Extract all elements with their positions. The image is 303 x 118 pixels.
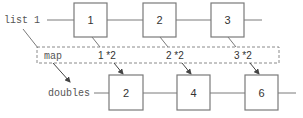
map-to-doubles-arrow-icon — [53, 63, 70, 82]
source-label-leader — [23, 29, 38, 48]
source-item: 2 — [143, 3, 176, 37]
source-list-label: list 1 — [4, 15, 40, 26]
map-diagram: list 1 1 2 3 map 1 *2 2 *2 3 *2 — [0, 0, 303, 118]
svg-text:4: 4 — [190, 87, 196, 99]
source-item: 1 — [74, 3, 107, 37]
svg-text:1: 1 — [87, 14, 93, 26]
map-expression: 2 *2 — [166, 50, 184, 61]
map-operation: map 1 *2 2 *2 3 *2 — [37, 47, 279, 63]
map-to-result-arrow-icon — [182, 63, 191, 74]
source-item: 3 — [211, 3, 244, 37]
map-label: map — [44, 51, 62, 62]
result-item: 2 — [109, 75, 143, 110]
svg-text:2: 2 — [123, 87, 129, 99]
map-expression: 3 *2 — [234, 50, 252, 61]
svg-text:3: 3 — [224, 14, 230, 26]
result-list-label: doubles — [48, 88, 90, 99]
map-to-result-arrow-icon — [114, 63, 123, 74]
map-to-result-arrow-icon — [250, 63, 259, 74]
source-to-map-line — [160, 37, 168, 47]
svg-text:6: 6 — [258, 87, 264, 99]
svg-text:2: 2 — [156, 14, 162, 26]
result-item: 4 — [177, 75, 210, 110]
source-list: list 1 1 2 3 — [4, 3, 262, 37]
source-to-map-line — [92, 37, 100, 47]
source-to-map-line — [228, 37, 236, 47]
result-list: doubles 2 4 6 — [48, 75, 296, 110]
result-item: 6 — [245, 75, 278, 110]
map-expression: 1 *2 — [98, 50, 116, 61]
